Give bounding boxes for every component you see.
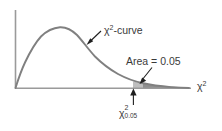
x-axis-label: χ2	[197, 81, 206, 92]
curve-label-suffix: -curve	[113, 24, 142, 36]
x-axis-label-exponent: 2	[203, 80, 207, 87]
chi-square-figure: χ2-curve Area = 0.05 χ20.05 χ2	[0, 0, 222, 131]
chi-square-plot	[0, 0, 222, 131]
area-label-value: 0.05	[160, 55, 180, 67]
curve-label: χ2-curve	[104, 25, 143, 36]
critical-value-arrow	[130, 89, 136, 105]
area-label-text: Area	[126, 55, 148, 67]
curve-label-arrow	[87, 31, 102, 45]
area-label-equals: =	[151, 55, 157, 67]
critical-value-label: χ20.05	[119, 108, 125, 119]
critical-value-base: χ	[119, 107, 125, 119]
area-label-arrow	[140, 68, 153, 85]
area-label: Area = 0.05	[126, 56, 181, 67]
